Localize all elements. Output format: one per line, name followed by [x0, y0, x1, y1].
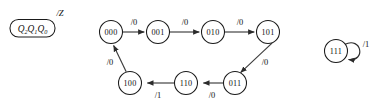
legend-state-vars: Q2Q1Q0 [18, 24, 49, 35]
state-label-111: 111 [330, 47, 342, 56]
state-transition-diagram: Q2Q1Q0 /Z 000 001 [0, 0, 380, 105]
state-node-011[interactable]: 011 [224, 72, 247, 95]
state-label-110: 110 [180, 79, 193, 88]
edge-label-010-101: /0 [237, 18, 244, 27]
state-label-101: 101 [262, 28, 275, 37]
state-label-100: 100 [124, 79, 137, 88]
state-node-111[interactable]: 111 [325, 40, 348, 63]
edge-label-000-001: /0 [131, 18, 138, 27]
state-node-100[interactable]: 100 [119, 72, 142, 95]
edge-label-100-000: /0 [107, 58, 114, 67]
edge-label-110-100: /1 [155, 91, 162, 100]
edge-100-to-000 [114, 45, 127, 71]
legend-output-label: /Z [55, 8, 63, 18]
state-label-010: 010 [207, 28, 220, 37]
edge-label-111-self: /1 [363, 40, 370, 49]
state-label-000: 000 [105, 28, 118, 37]
state-label-011: 011 [229, 79, 242, 88]
state-node-110[interactable]: 110 [175, 72, 198, 95]
legend-group: Q2Q1Q0 /Z [10, 8, 64, 37]
state-node-101[interactable]: 101 [257, 21, 280, 44]
edge-label-101-011: /0 [262, 58, 269, 67]
state-node-001[interactable]: 001 [147, 21, 170, 44]
state-node-000[interactable]: 000 [100, 21, 123, 44]
state-label-001: 001 [152, 28, 165, 37]
state-node-010[interactable]: 010 [202, 21, 225, 44]
edge-label-001-010: /0 [182, 18, 189, 27]
state-diagram-canvas: Q2Q1Q0 /Z 000 001 [0, 0, 380, 105]
edge-label-011-110: /0 [209, 91, 216, 100]
